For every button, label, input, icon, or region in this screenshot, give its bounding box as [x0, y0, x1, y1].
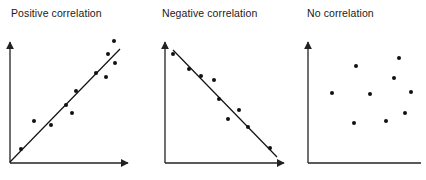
data-point [187, 67, 191, 71]
data-point [246, 125, 250, 129]
scatter-plots-canvas [0, 0, 426, 180]
data-point [352, 121, 356, 125]
data-point [112, 39, 116, 43]
data-point [368, 92, 372, 96]
data-point [354, 64, 358, 68]
data-point [330, 91, 334, 95]
data-point [403, 111, 407, 115]
data-point [392, 76, 396, 80]
data-point [113, 61, 117, 65]
data-point [226, 117, 230, 121]
data-point [171, 52, 175, 56]
data-point [397, 56, 401, 60]
data-point [74, 89, 78, 93]
data-point [104, 75, 108, 79]
negative-correlation-chart [165, 42, 284, 163]
data-point [19, 147, 23, 151]
data-point [94, 71, 98, 75]
trend-line [173, 50, 277, 157]
data-point [237, 108, 241, 112]
data-point [212, 78, 216, 82]
no-correlation-chart [308, 42, 421, 163]
data-point [70, 111, 74, 115]
data-point [32, 119, 36, 123]
data-point [199, 74, 203, 78]
data-point [106, 52, 110, 56]
data-point [64, 103, 68, 107]
data-point [384, 119, 388, 123]
data-point [268, 146, 272, 150]
data-point [217, 97, 221, 101]
data-point [409, 90, 413, 94]
positive-correlation-chart [10, 39, 128, 163]
data-point [49, 123, 53, 127]
